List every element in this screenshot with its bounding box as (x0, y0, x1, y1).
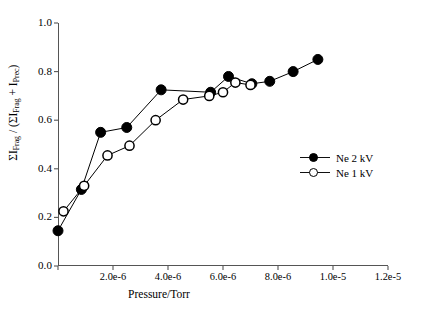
data-point (122, 122, 132, 132)
data-point (96, 127, 106, 137)
series-1 (53, 54, 323, 235)
x-tick-label: 1.2e-5 (375, 271, 401, 282)
x-tick-label: 6.0e-6 (210, 271, 236, 282)
data-point (265, 76, 275, 86)
data-point (59, 207, 68, 216)
x-tick-label: 1.0e-5 (320, 271, 346, 282)
x-axis-title: Pressure/Torr (0, 288, 428, 300)
data-point (53, 226, 63, 236)
data-point (125, 141, 134, 150)
series-2 (59, 78, 255, 216)
filled-circle-icon (300, 151, 330, 165)
x-tick-label: 4.0e-6 (155, 271, 181, 282)
series-line (58, 59, 318, 230)
chart-figure: 0.00.20.40.60.81.0 ΣIFrag / (ΣIFrag + IP… (0, 0, 428, 314)
chart-legend: Ne 2 kVNe 1 kV (300, 150, 396, 180)
data-point (151, 116, 160, 125)
legend-item-label: Ne 2 kV (330, 152, 373, 164)
x-axis-title-text: Pressure/Torr (128, 288, 190, 300)
x-axis-ticklabels: 2.0e-64.0e-66.0e-68.0e-61.0e-51.2e-5 (0, 271, 428, 287)
data-point (103, 151, 112, 160)
data-point (288, 67, 298, 77)
legend-item-1: Ne 2 kV (300, 150, 396, 165)
series-line (64, 83, 251, 212)
data-point (205, 91, 214, 100)
data-point (179, 95, 188, 104)
data-point (156, 85, 166, 95)
data-point (218, 88, 227, 97)
data-point (231, 78, 240, 87)
data-point (313, 54, 323, 64)
legend-item-2: Ne 1 kV (300, 165, 396, 180)
x-tick-label: 2.0e-6 (100, 271, 126, 282)
data-series-layer (53, 54, 323, 235)
legend-item-label: Ne 1 kV (330, 167, 373, 179)
x-tick-label: 8.0e-6 (265, 271, 291, 282)
data-point (80, 181, 89, 190)
open-circle-icon (300, 166, 330, 180)
data-point (246, 80, 255, 89)
axis-tick-marks (54, 23, 388, 270)
